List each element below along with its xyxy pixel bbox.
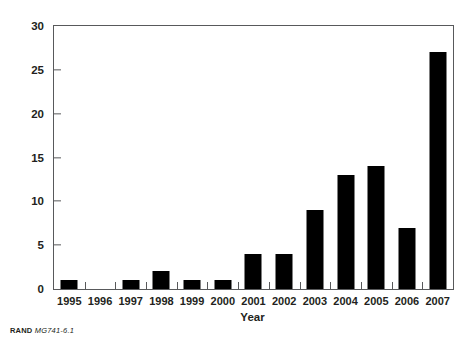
bar — [398, 228, 415, 289]
x-tick-mark — [392, 282, 393, 289]
bar — [184, 280, 201, 289]
bar-group — [54, 26, 85, 289]
bar-group — [269, 26, 300, 289]
x-tick-label: 2004 — [333, 295, 357, 307]
y-tick-label: 0 — [14, 283, 44, 295]
x-tick-label: 2007 — [425, 295, 449, 307]
bar — [368, 166, 385, 289]
y-tick-label: 10 — [14, 195, 44, 207]
y-tick-label: 5 — [14, 239, 44, 251]
bar-group — [330, 26, 361, 289]
x-tick-label: 1995 — [57, 295, 81, 307]
bar-group — [422, 26, 453, 289]
bar-group — [177, 26, 208, 289]
bar-series — [54, 26, 453, 289]
bar — [245, 254, 262, 289]
bar-group — [115, 26, 146, 289]
bar — [153, 271, 170, 289]
x-tick-mark — [207, 282, 208, 289]
x-tick-label: 2000 — [211, 295, 235, 307]
x-tick-label: 2003 — [303, 295, 327, 307]
x-tick-label: 2001 — [241, 295, 265, 307]
bar-group — [300, 26, 331, 289]
bar — [429, 52, 446, 289]
x-tick-label: 2006 — [395, 295, 419, 307]
y-tick-label: 15 — [14, 152, 44, 164]
x-tick-mark — [146, 282, 147, 289]
x-tick-mark — [177, 282, 178, 289]
source-note: RAND MG741-6.1 — [10, 326, 74, 335]
y-tick-label: 30 — [14, 20, 44, 32]
bar-group — [207, 26, 238, 289]
source-doc-id: MG741-6.1 — [35, 326, 74, 335]
x-tick-mark — [238, 282, 239, 289]
x-tick-label: 1997 — [118, 295, 142, 307]
bar — [276, 254, 293, 289]
y-tick-label: 20 — [14, 108, 44, 120]
x-tick-mark — [269, 282, 270, 289]
bar-group — [361, 26, 392, 289]
x-tick-label: 2002 — [272, 295, 296, 307]
y-tick-label: 25 — [14, 64, 44, 76]
source-brand: RAND — [10, 326, 32, 335]
bar-group — [146, 26, 177, 289]
bar — [337, 175, 354, 289]
x-axis-title: Year — [53, 311, 452, 323]
x-tick-label: 1998 — [149, 295, 173, 307]
chart-figure: Al Qa'ida attacks 051015202530 199519961… — [0, 0, 469, 348]
x-tick-mark — [300, 282, 301, 289]
x-tick-mark — [422, 282, 423, 289]
bar-group — [238, 26, 269, 289]
x-tick-label: 1996 — [88, 295, 112, 307]
x-tick-label: 2005 — [364, 295, 388, 307]
bar-group — [392, 26, 423, 289]
x-tick-mark — [115, 282, 116, 289]
bar-group — [85, 26, 116, 289]
bar — [214, 280, 231, 289]
x-tick-mark — [361, 282, 362, 289]
x-tick-mark — [85, 282, 86, 289]
bar — [122, 280, 139, 289]
x-tick-mark — [330, 282, 331, 289]
x-tick-label: 1999 — [180, 295, 204, 307]
bar — [61, 280, 78, 289]
plot-area: 051015202530 199519961997199819992000200… — [53, 25, 454, 290]
bar — [306, 210, 323, 289]
